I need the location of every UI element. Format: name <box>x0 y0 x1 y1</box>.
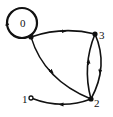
node-label-3: 3 <box>99 30 105 41</box>
edge-3-2 <box>91 34 101 99</box>
node-2 <box>88 96 93 101</box>
node-3 <box>92 31 97 36</box>
node-0 <box>28 34 33 39</box>
edge-2-1 <box>31 98 91 105</box>
edge-0-3 <box>31 31 95 37</box>
edge-0-2 <box>31 37 91 99</box>
node-label-2: 2 <box>94 98 100 109</box>
edge-2-3 <box>87 34 95 99</box>
node-1 <box>29 96 33 100</box>
node-label-0: 0 <box>20 18 26 29</box>
node-label-1: 1 <box>22 94 28 105</box>
